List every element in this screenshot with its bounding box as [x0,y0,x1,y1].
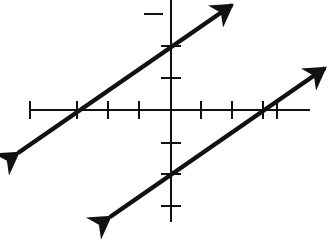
lower-line [110,68,325,217]
coordinate-plane-diagram [0,0,333,240]
axes [30,0,310,222]
upper-line [18,5,232,153]
